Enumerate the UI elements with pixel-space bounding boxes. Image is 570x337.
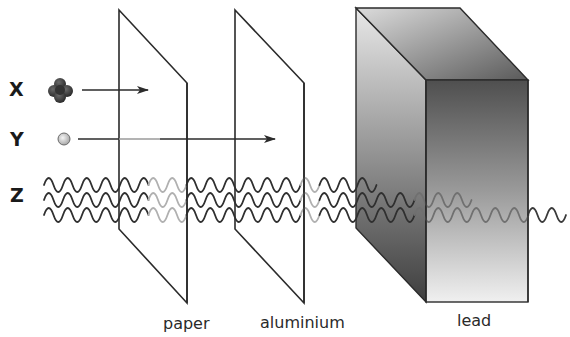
radiation-label-x: X <box>9 78 24 100</box>
diagram-canvas <box>0 0 570 337</box>
aluminium-sheet <box>235 10 304 303</box>
radiation-penetration-diagram: X Y Z paper aluminium lead <box>0 0 570 337</box>
material-label-paper: paper <box>163 314 210 333</box>
z-wave-emerging <box>528 208 566 222</box>
radiation-label-z: Z <box>10 184 24 206</box>
material-label-lead: lead <box>457 311 491 330</box>
y-particle-icon <box>58 133 70 145</box>
material-label-aluminium: aluminium <box>260 313 345 332</box>
paper-sheet <box>119 10 187 303</box>
x-particle-cluster-icon <box>48 78 73 103</box>
radiation-label-y: Y <box>10 128 24 150</box>
lead-block-front-face <box>426 80 528 302</box>
lead-block <box>356 8 528 302</box>
